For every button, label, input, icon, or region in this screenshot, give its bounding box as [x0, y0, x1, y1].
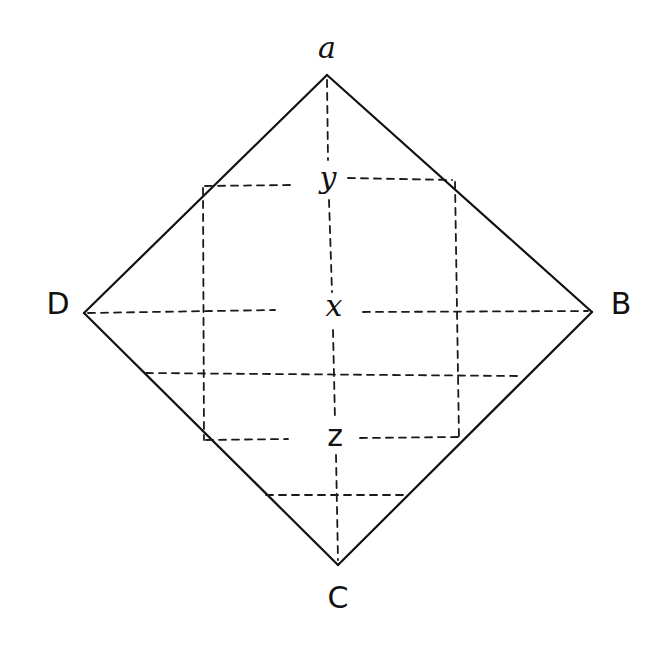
horizontal-line-x-right: [363, 311, 588, 312]
vertex-label-d: D: [46, 289, 69, 319]
horizontal-line-lower: [146, 373, 517, 376]
horizontal-line-x-left: [88, 310, 275, 313]
point-label-z: z: [327, 421, 343, 451]
horizontal-line-y-left: [205, 185, 292, 186]
vertex-label-c: C: [328, 583, 349, 613]
horizontal-line-z-left: [206, 439, 288, 440]
vertical-axis-bottom: [336, 455, 338, 560]
square-edge-da: [84, 75, 327, 313]
rect-left-side: [203, 188, 204, 440]
rect-right-side: [455, 182, 459, 438]
vertical-axis-mid-upper: [329, 200, 332, 292]
square-edge-cd: [84, 313, 338, 565]
vertex-label-a: a: [318, 33, 336, 63]
diagram-canvas: [0, 0, 664, 649]
square-edge-ab: [327, 75, 592, 312]
vertical-axis-top: [327, 80, 328, 160]
point-label-y: y: [320, 163, 337, 193]
horizontal-line-z-right: [360, 437, 458, 438]
vertex-label-b: B: [611, 289, 632, 319]
horizontal-line-y-right: [348, 178, 452, 180]
point-label-x: x: [326, 291, 343, 321]
